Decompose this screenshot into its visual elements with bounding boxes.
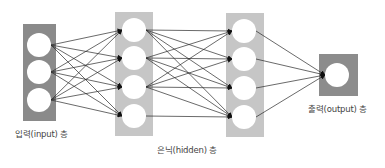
connections [51, 30, 325, 117]
input-layer-label: 입력(input) 층 [15, 127, 68, 139]
output-layer-label: 출력(output) 층 [308, 102, 367, 114]
hidden1-neuron-4 [122, 104, 146, 128]
hidden-layer-label: 은닉(hidden) 층 [157, 143, 217, 155]
input-neuron-3 [27, 88, 51, 112]
edge-hidden1-3-to-hidden2-4 [146, 87, 232, 117]
edge-hidden1-4-to-hidden2-4 [146, 116, 232, 117]
hidden1-neuron-1 [122, 18, 146, 42]
hidden2-neuron-1 [232, 19, 256, 43]
edge-input-1-to-hidden1-1 [51, 30, 122, 45]
edge-input-3-to-hidden1-4 [51, 100, 122, 116]
edge-hidden2-1-to-output-1 [256, 31, 325, 75]
hidden1-neuron-2 [122, 46, 146, 70]
edge-hidden1-1-to-hidden2-1 [146, 30, 232, 31]
edge-hidden1-3-to-hidden2-3 [146, 87, 232, 88]
edge-input-3-to-hidden1-1 [51, 30, 122, 100]
hidden1-neuron-3 [122, 75, 146, 99]
edge-input-2-to-hidden1-3 [51, 72, 122, 87]
hidden2-neuron-2 [232, 47, 256, 71]
output-neuron-1 [325, 63, 349, 87]
hidden2-neuron-4 [232, 105, 256, 129]
edge-hidden2-2-to-output-1 [256, 59, 325, 75]
input-neuron-2 [27, 60, 51, 84]
input-neuron-1 [27, 33, 51, 57]
edge-hidden1-1-to-hidden2-4 [146, 30, 232, 117]
edge-hidden1-3-to-hidden2-2 [146, 59, 232, 87]
edge-hidden1-2-to-hidden2-1 [146, 31, 232, 58]
hidden2-neuron-3 [232, 76, 256, 100]
